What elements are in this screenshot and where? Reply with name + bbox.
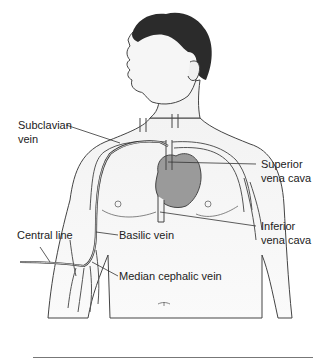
inferior-vena-cava-vessel: [158, 196, 164, 222]
label-inferior-vena-cava-line2: vena cava: [261, 234, 311, 247]
label-superior-vena-cava-line2: vena cava: [261, 172, 311, 185]
bottom-rule: [33, 357, 313, 358]
label-inferior-vena-cava-line1: Inferior: [261, 220, 295, 233]
label-subclavian-vein-line1: Subclavian: [18, 119, 72, 132]
label-central-line: Central line: [17, 229, 73, 242]
ear: [188, 61, 200, 81]
label-superior-vena-cava-line1: Superior: [261, 158, 303, 171]
torso-outline: [48, 118, 292, 318]
label-median-cephalic-vein: Median cephalic vein: [119, 270, 222, 283]
label-basilic-vein: Basilic vein: [119, 229, 174, 242]
label-subclavian-vein-line2: vein: [18, 133, 38, 146]
